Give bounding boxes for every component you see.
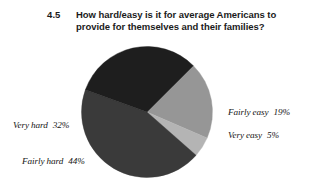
- pie-slice-group: [81, 46, 212, 177]
- slice-label-fairly-hard: Fairly hard44%: [22, 156, 85, 166]
- slice-label-fairly-hard-name: Fairly hard: [22, 156, 63, 166]
- slice-label-fairly-easy-pct: 19%: [274, 107, 291, 117]
- slice-label-very-easy-pct: 5%: [267, 130, 279, 140]
- slice-label-very-hard: Very hard32%: [13, 120, 69, 130]
- slice-label-very-easy-name: Very easy: [228, 130, 262, 140]
- slice-label-fairly-easy: Fairly easy19%: [228, 107, 290, 117]
- slice-label-very-hard-name: Very hard: [13, 120, 48, 130]
- chart-page: 4.5 How hard/easy is it for average Amer…: [0, 0, 321, 190]
- slice-label-fairly-easy-name: Fairly easy: [228, 107, 269, 117]
- slice-label-very-hard-pct: 32%: [53, 120, 70, 130]
- slice-label-fairly-hard-pct: 44%: [68, 156, 85, 166]
- slice-label-very-easy: Very easy5%: [228, 130, 279, 140]
